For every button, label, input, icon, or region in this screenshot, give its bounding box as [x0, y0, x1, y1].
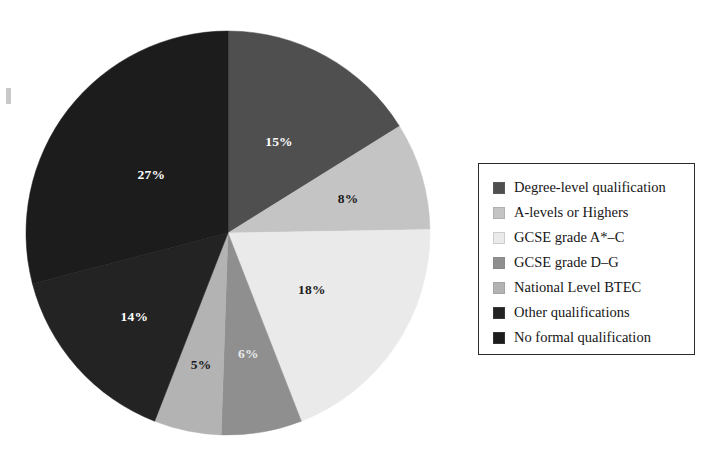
legend-item-national-level-btec[interactable]: National Level BTEC [493, 275, 694, 300]
legend-item-label: No formal qualification [514, 330, 651, 345]
legend-item-label: GCSE grade A*–C [514, 230, 624, 245]
pie-slice-value-label: 15% [265, 134, 293, 149]
pie-chart: 15%8%18%6%5%14%27% [25, 30, 431, 436]
legend-item-degree-level-qualification[interactable]: Degree-level qualification [493, 175, 694, 200]
legend-item-label: National Level BTEC [514, 280, 641, 295]
pie-slice-value-label: 14% [121, 309, 149, 324]
legend-item-label: Other qualifications [514, 305, 630, 320]
pie-slice-value-label: 6% [238, 346, 259, 361]
legend-swatch-icon [493, 182, 505, 194]
pie-slice-group [26, 31, 430, 435]
legend-item-a-levels-or-highers[interactable]: A-levels or Highers [493, 200, 694, 225]
legend-item-label: Degree-level qualification [514, 180, 666, 195]
legend-swatch-icon [493, 332, 505, 344]
legend-item-other-qualifications[interactable]: Other qualifications [493, 300, 694, 325]
legend-item-label: A-levels or Highers [514, 205, 628, 220]
legend-box: Degree-level qualification A-levels or H… [478, 163, 695, 355]
pie-slice-value-label: 27% [137, 167, 165, 182]
page-edge-artifact [6, 88, 11, 104]
legend-item-no-formal-qualification[interactable]: No formal qualification [493, 325, 694, 350]
pie-chart-svg: 15%8%18%6%5%14%27% [25, 30, 431, 436]
pie-slice-value-label: 5% [191, 357, 212, 372]
legend-swatch-icon [493, 307, 505, 319]
legend-swatch-icon [493, 257, 505, 269]
pie-slice-value-label: 18% [298, 282, 326, 297]
legend-swatch-icon [493, 207, 505, 219]
pie-slice-value-label: 8% [338, 191, 359, 206]
legend-swatch-icon [493, 282, 505, 294]
legend-item-gcse-grade-d-g[interactable]: GCSE grade D–G [493, 250, 694, 275]
legend-swatch-icon [493, 232, 505, 244]
legend-item-label: GCSE grade D–G [514, 255, 619, 270]
legend-item-gcse-grade-a-c[interactable]: GCSE grade A*–C [493, 225, 694, 250]
